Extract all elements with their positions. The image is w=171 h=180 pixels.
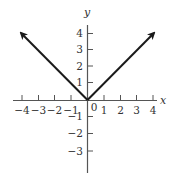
y-tick-label: −2: [68, 127, 83, 139]
y-tick-label: 2: [76, 60, 83, 72]
y-tick-label: 4: [76, 27, 83, 39]
x-tick-label: 3: [133, 104, 140, 116]
x-tick-label: 4: [150, 104, 157, 116]
y-axis-ticks: [88, 34, 94, 152]
y-tick-label: −3: [68, 145, 83, 157]
origin-label: 0: [91, 101, 98, 113]
y-tick-label: 1: [76, 76, 83, 88]
x-tick-label: 2: [117, 104, 124, 116]
absolute-value-graph: y x −4 −3 −2 −1 0 1 2 3 4 4 3 2 1 −1 −2 …: [0, 0, 171, 180]
y-tick-label: 3: [76, 43, 83, 55]
x-tick-label: −4: [14, 104, 30, 116]
x-tick-label: −3: [31, 104, 46, 116]
x-tick-label: −2: [47, 104, 62, 116]
graph-canvas: y x −4 −3 −2 −1 0 1 2 3 4 4 3 2 1 −1 −2 …: [0, 0, 171, 180]
x-axis-label: x: [160, 94, 167, 107]
y-axis-label: y: [83, 6, 91, 19]
x-tick-label: 1: [101, 104, 108, 116]
curve-right-branch: [88, 33, 155, 100]
y-tick-label: −1: [68, 110, 83, 122]
